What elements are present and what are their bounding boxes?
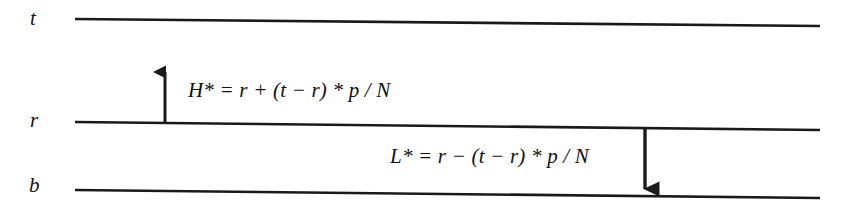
level-line-top	[75, 19, 820, 26]
high-threshold-formula: H* = r + (t − r) * p / N	[188, 80, 391, 101]
threshold-diagram: t r b H* = r + (t − r) * p / N L* = r − …	[0, 0, 841, 215]
level-label-bottom: b	[29, 175, 40, 196]
low-threshold-formula: L* = r − (t − r) * p / N	[390, 146, 589, 167]
level-line-middle	[75, 122, 820, 130]
level-label-middle: r	[30, 110, 38, 131]
diagram-canvas	[0, 0, 841, 215]
level-line-bottom	[75, 190, 820, 198]
level-label-top: t	[30, 8, 36, 29]
